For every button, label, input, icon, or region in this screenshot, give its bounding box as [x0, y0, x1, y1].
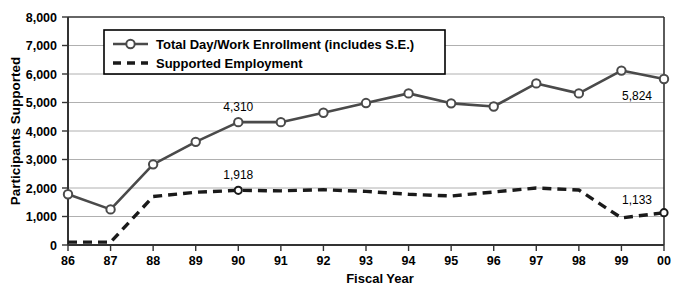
- legend-swatch-marker-total-enrollment: [126, 40, 134, 48]
- chart-container: 01,0002,0003,0004,0005,0006,0007,0008,00…: [0, 0, 694, 289]
- x-axis-tick-label: 90: [231, 254, 245, 268]
- x-axis-tick-label: 00: [657, 254, 671, 268]
- x-axis-tick-label: 95: [444, 254, 458, 268]
- data-point-marker: [319, 109, 327, 117]
- data-point-marker: [575, 89, 583, 97]
- data-point-marker: [404, 89, 412, 97]
- data-point-marker: [106, 205, 114, 213]
- data-point-marker: [64, 190, 72, 198]
- x-axis-tick-labels: 868788899091929394959697989900: [61, 254, 671, 268]
- data-point-marker: [192, 138, 200, 146]
- y-axis-tick-label: 3,000: [26, 153, 57, 167]
- annotation-value-1918: 1,918: [223, 168, 253, 182]
- legend: Total Day/Work Enrollment (includes S.E.…: [104, 30, 445, 74]
- data-point-marker: [149, 160, 157, 168]
- data-point-marker: [235, 187, 242, 194]
- data-point-marker: [490, 102, 498, 110]
- legend-label-supported-employment: Supported Employment: [156, 56, 303, 71]
- y-axis-tick-label: 8,000: [26, 11, 57, 25]
- data-point-marker: [617, 66, 625, 74]
- y-axis-tick-label: 0: [50, 239, 57, 253]
- data-point-marker: [234, 118, 242, 126]
- y-axis-tick-labels: 01,0002,0003,0004,0005,0006,0007,0008,00…: [26, 11, 57, 253]
- annotation-value-5824: 5,824: [622, 89, 652, 103]
- y-axis-tick-label: 7,000: [26, 39, 57, 53]
- x-axis-tick-label: 89: [189, 254, 203, 268]
- x-axis-tick-label: 93: [359, 254, 373, 268]
- x-axis-tick-label: 86: [61, 254, 75, 268]
- data-point-marker: [660, 75, 668, 83]
- data-point-marker: [362, 99, 370, 107]
- y-axis-tick-label: 1,000: [26, 210, 57, 224]
- x-axis-title: Fiscal Year: [346, 271, 414, 286]
- annotation-value-1133: 1,133: [622, 193, 652, 207]
- y-axis-tick-label: 2,000: [26, 182, 57, 196]
- x-axis-tick-label: 88: [146, 254, 160, 268]
- line-chart: 01,0002,0003,0004,0005,0006,0007,0008,00…: [0, 0, 694, 289]
- data-point-marker: [447, 99, 455, 107]
- y-axis-tick-label: 5,000: [26, 96, 57, 110]
- x-axis-tick-label: 99: [614, 254, 628, 268]
- x-axis-tick-label: 87: [104, 254, 118, 268]
- data-point-marker: [532, 79, 540, 87]
- x-axis-tick-label: 98: [572, 254, 586, 268]
- legend-label-total-enrollment: Total Day/Work Enrollment (includes S.E.…: [156, 37, 414, 52]
- data-point-marker: [660, 209, 667, 216]
- data-point-marker: [277, 118, 285, 126]
- y-axis-title: Participants Supported: [8, 57, 23, 206]
- x-axis-tick-label: 91: [274, 254, 288, 268]
- y-axis-tick-label: 4,000: [26, 125, 57, 139]
- y-axis-tick-label: 6,000: [26, 68, 57, 82]
- x-axis-tick-label: 94: [402, 254, 416, 268]
- x-axis-tick-label: 96: [487, 254, 501, 268]
- x-axis-tick-label: 92: [316, 254, 330, 268]
- annotation-value-4310: 4,310: [223, 100, 253, 114]
- x-axis-tick-label: 97: [529, 254, 543, 268]
